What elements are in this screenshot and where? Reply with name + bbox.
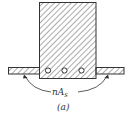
rebar-1: [45, 68, 50, 73]
concrete-section: [40, 3, 97, 79]
right-transformed-steel-strip: [96, 68, 124, 75]
rebar-2: [62, 68, 67, 73]
right-arrowhead-icon: [105, 75, 110, 79]
left-arrowhead-icon: [23, 75, 28, 79]
figure-caption: (a): [57, 103, 69, 112]
left-transformed-steel-strip: [9, 68, 40, 75]
n-as-label: nAs: [52, 88, 68, 99]
rebar-3: [79, 68, 84, 73]
